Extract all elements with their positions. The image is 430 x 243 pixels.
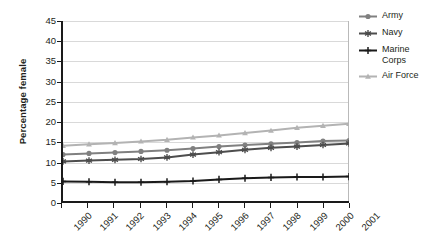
- x-tick-label: 1991: [97, 210, 120, 233]
- x-tick-label: 1999: [307, 210, 330, 233]
- data-point-plus: [365, 47, 371, 54]
- legend-item-marine-corps[interactable]: Marine Corps: [358, 44, 430, 65]
- data-point-plus: [320, 173, 326, 180]
- y-tick-label: 5: [30, 177, 56, 188]
- data-point-circle: [138, 149, 143, 154]
- data-point-plus: [242, 175, 248, 182]
- data-point-circle: [216, 144, 221, 149]
- y-tick-label: 0: [30, 197, 56, 208]
- x-tick-mark: [140, 203, 141, 208]
- x-tick-label: 1993: [150, 210, 173, 233]
- data-point-plus: [190, 177, 196, 184]
- y-tick-label: 10: [30, 157, 56, 168]
- data-point-plus: [164, 178, 170, 185]
- legend-marker-plus-icon: [358, 45, 378, 56]
- x-tick-label: 1992: [124, 210, 147, 233]
- y-tick-label: 15: [30, 136, 56, 147]
- plot-area: [61, 21, 349, 203]
- series-canvas: [63, 21, 349, 201]
- x-tick-mark: [218, 203, 219, 208]
- data-point-plus: [268, 174, 274, 181]
- x-tick-mark: [244, 203, 245, 208]
- y-tick-label: 35: [30, 55, 56, 66]
- legend-label: Marine Corps: [382, 44, 430, 65]
- data-point-plus: [63, 178, 66, 185]
- x-tick-label: 2001: [359, 210, 382, 233]
- data-point-circle: [190, 146, 195, 151]
- data-point-plus: [112, 179, 118, 186]
- x-tick-mark: [113, 203, 114, 208]
- data-point-plus: [86, 178, 92, 185]
- legend-item-air-force[interactable]: Air Force: [358, 70, 430, 82]
- x-tick-mark: [87, 203, 88, 208]
- x-tick-mark: [166, 203, 167, 208]
- data-point-plus: [216, 176, 222, 183]
- x-tick-label: 1994: [176, 210, 199, 233]
- data-point-circle: [164, 148, 169, 153]
- y-tick-label: 20: [30, 116, 56, 127]
- x-tick-label: 2000: [333, 210, 356, 233]
- x-tick-mark: [270, 203, 271, 208]
- x-tick-mark: [192, 203, 193, 208]
- legend-marker-triangle-icon: [358, 71, 378, 82]
- legend-label: Navy: [382, 27, 403, 38]
- legend-item-navy[interactable]: Navy: [358, 27, 430, 39]
- legend-item-army[interactable]: Army: [358, 10, 430, 22]
- y-tick-label: 30: [30, 76, 56, 87]
- x-tick-label: 1995: [202, 210, 225, 233]
- y-tick-label: 45: [30, 15, 56, 26]
- data-point-circle: [365, 14, 370, 19]
- legend-label: Air Force: [382, 70, 419, 81]
- x-tick-mark: [323, 203, 324, 208]
- data-point-circle: [63, 152, 66, 157]
- x-tick-mark: [297, 203, 298, 208]
- data-point-plus: [138, 179, 144, 186]
- x-tick-label: 1996: [228, 210, 251, 233]
- x-tick-mark: [349, 203, 350, 208]
- chart-legend: ArmyNavyMarine CorpsAir Force: [358, 10, 430, 87]
- series-line-marine-corps: [63, 177, 349, 183]
- y-axis-title: Percentage female: [17, 32, 28, 172]
- y-tick-label: 25: [30, 96, 56, 107]
- legend-marker-circle-icon: [358, 11, 378, 22]
- data-point-plus: [294, 173, 300, 180]
- data-point-plus: [346, 173, 349, 180]
- y-tick-label: 40: [30, 35, 56, 46]
- data-point-circle: [86, 151, 91, 156]
- x-tick-mark: [61, 203, 62, 208]
- line-chart-figure: Percentage female 051015202530354045 199…: [0, 0, 430, 243]
- x-tick-label: 1990: [71, 210, 94, 233]
- x-tick-label: 1997: [254, 210, 277, 233]
- data-point-circle: [112, 150, 117, 155]
- legend-label: Army: [382, 10, 403, 21]
- x-tick-label: 1998: [281, 210, 304, 233]
- legend-marker-asterisk-icon: [358, 28, 378, 39]
